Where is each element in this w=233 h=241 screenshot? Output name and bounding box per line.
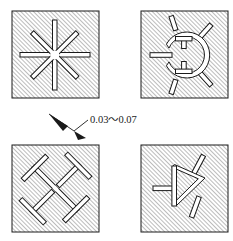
dimension-value-text: 0.03～0.07 bbox=[90, 114, 137, 125]
dimension-callout: 0.03～0.07 bbox=[49, 114, 137, 140]
panel-bottom-right bbox=[141, 145, 228, 232]
figure-canvas: 0.03～0.07 bbox=[0, 0, 233, 241]
ring-inner-stub-bottom-cap bbox=[176, 69, 193, 73]
panel-bottom-left bbox=[9, 142, 102, 235]
technical-drawing-figure: 0.03～0.07 bbox=[0, 0, 233, 241]
panel-top-left bbox=[12, 11, 99, 98]
ring-inner-stub-top-cap bbox=[176, 37, 193, 41]
star-center-hub bbox=[50, 50, 59, 59]
panel-top-right bbox=[141, 11, 228, 98]
ring-gap-stub-left bbox=[150, 53, 172, 58]
leader-arrowhead-upper bbox=[49, 114, 68, 131]
chevron-left-edge bbox=[172, 166, 177, 206]
leader-arrowhead-lower bbox=[74, 131, 86, 140]
leader-line-shoulder bbox=[74, 120, 88, 131]
